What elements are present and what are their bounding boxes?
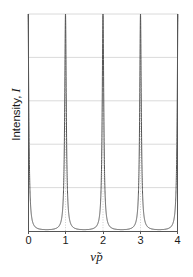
y-axis-label-prefix: Intensity, [10, 92, 22, 140]
xtick-label-3: 3 [131, 234, 151, 247]
xtick-label-2: 2 [93, 234, 113, 247]
xtick-label-0: 0 [19, 234, 39, 247]
xtick-label-1: 1 [56, 234, 76, 247]
xtick-label-4: 4 [168, 234, 188, 247]
y-axis-label: Intensity, I [10, 45, 23, 185]
chart-figure: 0 1 2 3 4 ν̃p Intensity, I [0, 0, 193, 277]
data-curve [28, 14, 178, 230]
x-axis-label-suffix: p [96, 249, 103, 264]
x-axis-label: ν̃p [0, 250, 193, 264]
y-axis-label-symbol: I [9, 88, 23, 92]
